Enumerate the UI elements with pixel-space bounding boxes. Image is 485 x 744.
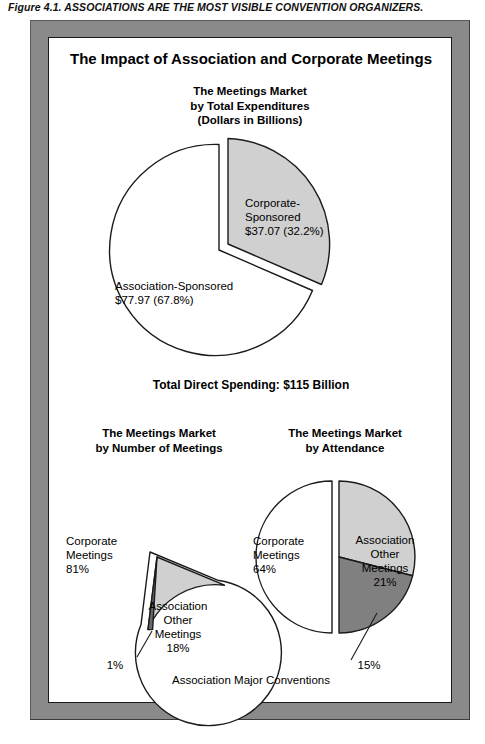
pie-label-line: Sponsored	[245, 210, 324, 224]
pie-label-association-sponsored: Association-Sponsored $77.97 (67.8%)	[115, 279, 233, 307]
chart-title-line: by Attendance	[143, 441, 485, 456]
page-title: The Impact of Association and Corporate …	[49, 50, 453, 67]
chart-title-line: (Dollars in Billions)	[49, 113, 451, 128]
pie-label-15-percent: 15%	[352, 658, 386, 672]
pie-label-line: Association	[343, 533, 427, 547]
pie-label-line: Meetings	[343, 561, 427, 575]
total-direct-spending: Total Direct Spending: $115 Billion	[49, 378, 453, 392]
pie-label-association-other-meetings-attendance: Association Other Meetings 21%	[343, 533, 427, 589]
pie-label-line: $37.07 (32.2%)	[245, 224, 324, 238]
figure-panel: The Impact of Association and Corporate …	[48, 37, 452, 703]
pie-chart-expenditures	[49, 134, 453, 362]
chart-title-line: by Total Expenditures	[49, 99, 451, 114]
pie-label-corporate-meetings-attendance: Corporate Meetings 64%	[253, 534, 304, 576]
chart-title-line: The Meetings Market	[143, 426, 485, 441]
pie-label-line: Other	[343, 547, 427, 561]
pie-label-line: Corporate-	[245, 196, 324, 210]
pie-label-corporate-sponsored: Corporate- Sponsored $37.07 (32.2%)	[245, 196, 324, 238]
pie-label-line: $77.97 (67.8%)	[115, 293, 233, 307]
association-major-conventions-caption: Association Major Conventions	[49, 674, 453, 686]
pie-label-line: Meetings	[253, 548, 304, 562]
pie-label-line: 64%	[253, 562, 304, 576]
figure-page: Figure 4.1. ASSOCIATIONS ARE THE MOST VI…	[0, 0, 485, 744]
chart-title-line: The Meetings Market	[49, 84, 451, 99]
chart-title-attendance: The Meetings Market by Attendance	[143, 426, 485, 455]
pie-label-line: 21%	[343, 575, 427, 589]
figure-caption: Figure 4.1. ASSOCIATIONS ARE THE MOST VI…	[8, 1, 478, 13]
pie-label-line: 15%	[352, 658, 386, 672]
chart-title-expenditures: The Meetings Market by Total Expenditure…	[49, 84, 451, 128]
pie-label-line: Association-Sponsored	[115, 279, 233, 293]
pie-label-line: Corporate	[253, 534, 304, 548]
